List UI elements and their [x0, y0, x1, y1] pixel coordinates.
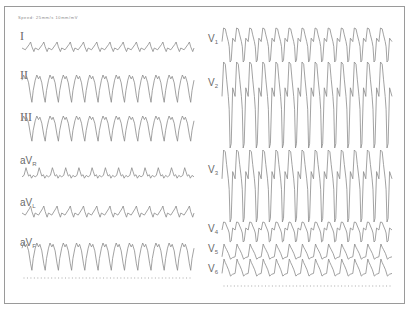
- lead-ii-trace: [22, 75, 194, 102]
- lead-iii-trace: [22, 116, 194, 141]
- lead-i-trace: [22, 42, 194, 52]
- lead-v5-trace: [222, 244, 392, 259]
- lead-v2-trace: [222, 62, 392, 148]
- lead-avl-trace: [22, 206, 194, 217]
- lead-avr-trace: [22, 168, 194, 179]
- lead-v3-trace: [222, 150, 392, 222]
- lead-avf-trace: [22, 243, 194, 270]
- lead-v6-trace: [222, 259, 392, 276]
- lead-v1-trace: [222, 28, 392, 62]
- lead-v4-trace: [222, 222, 392, 242]
- ecg-traces: [0, 0, 411, 311]
